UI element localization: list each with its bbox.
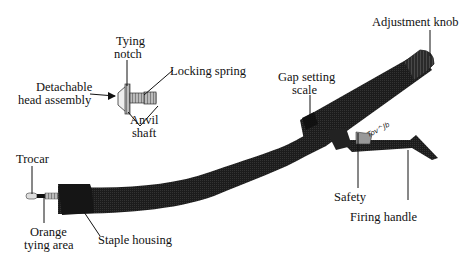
- label-firing-handle: Firing handle: [350, 210, 417, 224]
- label-anvil-shaft-1: Anvil: [130, 113, 158, 127]
- label-staple-housing: Staple housing: [98, 233, 172, 247]
- label-tying-notch-1: Tying: [116, 34, 145, 48]
- label-gap-setting-2: scale: [292, 83, 317, 97]
- label-detachable-head-2: head assembly: [18, 93, 86, 107]
- label-gap-setting-1: Gap setting: [278, 70, 335, 84]
- label-detachable-head-1: Detachable: [36, 80, 86, 94]
- label-tying-notch-2: notch: [114, 47, 142, 61]
- label-locking-spring: Locking spring: [170, 64, 246, 78]
- label-orange-tying-1: Orange: [30, 225, 67, 239]
- locking-spring-leader: [144, 70, 173, 95]
- label-trocar: Trocar: [16, 152, 49, 166]
- detachable-head-part: [118, 84, 156, 114]
- label-anvil-shaft-2: shaft: [132, 126, 156, 140]
- stapler-diagram: Adjustment knob Tying notch Locking spri…: [0, 0, 459, 261]
- label-orange-tying-2: tying area: [24, 238, 74, 252]
- label-adjustment-knob: Adjustment knob: [372, 15, 458, 29]
- label-safety: Safety: [334, 190, 366, 204]
